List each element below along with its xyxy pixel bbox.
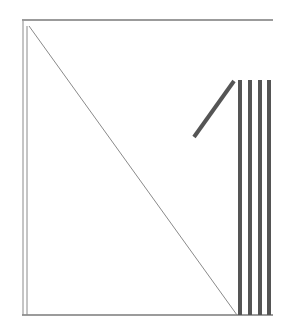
vertical-bar: [248, 80, 252, 315]
vertical-bar: [267, 80, 271, 315]
thick-diagonal-stroke: [194, 81, 234, 137]
thin-diagonal-line: [29, 26, 237, 315]
vertical-bar: [238, 80, 242, 315]
vertical-bar: [258, 80, 262, 315]
line-drawing: [0, 0, 288, 334]
diagram-canvas: [0, 0, 288, 334]
